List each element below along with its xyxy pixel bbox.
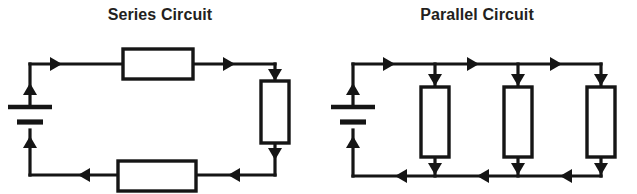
arrow-branch-3-out-down bbox=[594, 163, 608, 175]
arrow-bottom-left-left bbox=[78, 168, 90, 182]
arrow-branch-2-out-down bbox=[511, 163, 525, 175]
parallel-circuit-title: Parallel Circuit bbox=[317, 6, 637, 24]
arrow-top-rail-1-right bbox=[383, 57, 395, 71]
parallel-current-arrows bbox=[346, 57, 608, 183]
arrow-branch-1-in-down bbox=[428, 74, 442, 86]
arrow-bottom-right-left bbox=[228, 168, 240, 182]
parallel-resistor-branch-1 bbox=[421, 87, 449, 157]
arrow-bottom-rail-2-left bbox=[477, 169, 489, 183]
parallel-resistor-branch-2 bbox=[504, 87, 532, 157]
arrow-battery-upper-up bbox=[346, 83, 360, 95]
parallel-resistor-branch-3 bbox=[587, 87, 615, 157]
series-resistor-top bbox=[123, 49, 193, 79]
series-circuit-graphic bbox=[0, 30, 320, 194]
arrow-battery-lower-up bbox=[346, 136, 360, 148]
parallel-wires bbox=[353, 64, 601, 176]
series-circuit-diagram: Series Circuit bbox=[0, 0, 320, 194]
arrow-bottom-rail-3-left bbox=[560, 169, 572, 183]
arrow-top-rail-2-right bbox=[467, 57, 479, 71]
parallel-circuit-graphic bbox=[317, 30, 637, 194]
arrow-battery-upper-up bbox=[23, 83, 37, 95]
arrow-branch-3-in-down bbox=[594, 74, 608, 86]
parallel-battery-symbol bbox=[331, 107, 375, 122]
circuit-diagram-canvas: Series Circuit bbox=[0, 0, 637, 194]
arrow-right-lower-down bbox=[268, 148, 282, 160]
arrow-bottom-rail-1-left bbox=[395, 169, 407, 183]
arrow-top-rail-3-right bbox=[550, 57, 562, 71]
arrow-right-upper-down bbox=[268, 69, 282, 81]
series-battery-symbol bbox=[8, 107, 52, 122]
arrow-top-right-right bbox=[223, 57, 235, 71]
series-circuit-title: Series Circuit bbox=[0, 6, 320, 24]
arrow-branch-2-in-down bbox=[511, 74, 525, 86]
arrow-branch-1-out-down bbox=[428, 163, 442, 175]
arrow-top-left-right bbox=[50, 57, 62, 71]
series-resistor-right bbox=[261, 81, 289, 143]
arrow-battery-lower-up bbox=[23, 136, 37, 148]
parallel-circuit-diagram: Parallel Circuit bbox=[317, 0, 637, 194]
series-resistor-bottom bbox=[118, 161, 196, 191]
